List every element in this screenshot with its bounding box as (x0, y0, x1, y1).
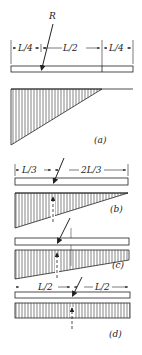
caption-b: (b) (110, 204, 123, 214)
dim-label-l2-left: L/2 (37, 282, 53, 292)
panel-d: L/2 L/2 (d) (15, 277, 130, 339)
panel-b: L/3 2L/3 (b) (15, 158, 128, 228)
stress-triangle-a (11, 89, 102, 145)
dim-label-l2-right: L/2 (94, 282, 110, 292)
beam-stress-diagram: R L/4 L/2 L/4 (a) (0, 0, 142, 355)
caption-d: (d) (109, 329, 122, 339)
dim-label-l2: L/2 (62, 43, 78, 53)
beam-b (15, 178, 128, 185)
dim-label-l3: L/3 (21, 165, 37, 175)
dim-label-l4-right: L/4 (108, 43, 124, 53)
force-arrow-r (42, 24, 54, 70)
dim-label-l4-left: L/4 (17, 43, 33, 53)
caption-a: (a) (94, 135, 107, 145)
dim-label-2l3: 2L/3 (80, 165, 102, 175)
beam-a (11, 66, 133, 72)
panel-a: R L/4 L/2 L/4 (a) (11, 11, 133, 145)
beam-c (15, 238, 129, 245)
panel-c: (c) (15, 218, 129, 279)
force-label-r: R (48, 11, 56, 21)
caption-c: (c) (112, 260, 125, 270)
